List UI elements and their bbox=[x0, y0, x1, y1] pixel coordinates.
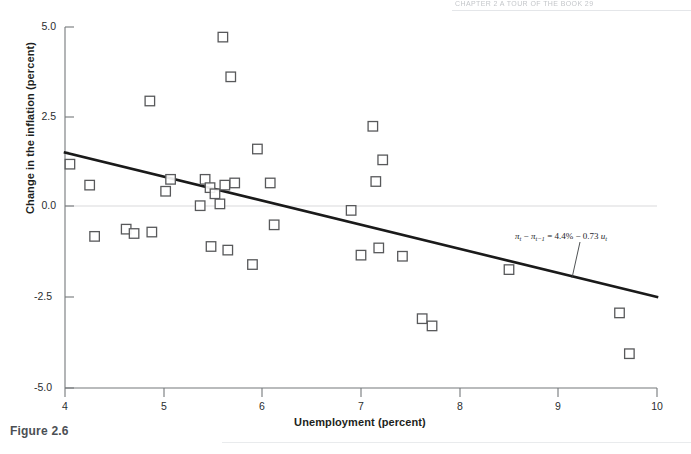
data-point bbox=[253, 144, 263, 154]
data-point bbox=[218, 32, 228, 42]
data-point bbox=[220, 180, 230, 190]
data-point bbox=[195, 201, 205, 211]
data-point bbox=[145, 96, 155, 106]
data-point bbox=[504, 265, 514, 275]
y-tick-label: -5.0 bbox=[18, 381, 52, 393]
data-point bbox=[356, 250, 366, 260]
data-point bbox=[215, 199, 225, 209]
data-point bbox=[371, 177, 381, 187]
data-point bbox=[223, 245, 233, 255]
data-point bbox=[427, 321, 437, 331]
data-point bbox=[161, 187, 171, 197]
data-point bbox=[210, 189, 220, 199]
regression-line bbox=[65, 153, 657, 298]
data-point bbox=[378, 155, 388, 165]
x-tick-label: 5 bbox=[152, 400, 176, 412]
equation-u-t: ut bbox=[601, 231, 607, 241]
data-point bbox=[615, 308, 625, 318]
figure-caption: Figure 2.6 bbox=[10, 424, 69, 438]
y-tick-label: 0.0 bbox=[22, 199, 56, 211]
y-axis-title: Change in the inflation (percent) bbox=[24, 38, 36, 218]
data-point bbox=[230, 178, 240, 188]
data-point bbox=[206, 242, 216, 252]
regression-equation-annotation: πt − πt−1 = 4.4% − 0.73 ut bbox=[515, 231, 607, 242]
x-tick-label: 8 bbox=[448, 400, 472, 412]
data-point bbox=[65, 159, 75, 169]
data-point bbox=[269, 220, 279, 230]
y-tick-label: 5.0 bbox=[22, 20, 56, 32]
data-point bbox=[265, 178, 275, 188]
x-tick-label: 6 bbox=[250, 400, 274, 412]
y-tick-marks bbox=[65, 27, 74, 388]
x-tick-label: 4 bbox=[53, 400, 77, 412]
data-point bbox=[374, 243, 384, 253]
annotation-leader-line bbox=[572, 242, 580, 278]
data-point bbox=[147, 227, 157, 237]
x-tick-label: 10 bbox=[645, 400, 669, 412]
scatter-plot: Change in the inflation (percent) Unempl… bbox=[0, 0, 691, 420]
data-point bbox=[368, 122, 378, 132]
data-point bbox=[625, 349, 635, 359]
x-tick-marks bbox=[65, 388, 657, 397]
data-point bbox=[398, 251, 408, 260]
equation-minus: − bbox=[521, 231, 531, 241]
data-point bbox=[226, 72, 236, 82]
y-tick-label: 2.5 bbox=[22, 110, 56, 122]
caption-divider bbox=[222, 442, 691, 443]
equation-rhs: = 4.4% − 0.73 bbox=[545, 231, 601, 241]
equation-pi-t-1: πt−1 bbox=[531, 231, 545, 241]
data-point bbox=[129, 229, 139, 239]
x-tick-label: 7 bbox=[349, 400, 373, 412]
figure-page: CHAPTER 2 A TOUR OF THE BOOK 29 bbox=[0, 0, 691, 454]
y-tick-label: -2.5 bbox=[18, 290, 52, 302]
x-axis-title: Unemployment (percent) bbox=[200, 416, 520, 428]
data-point bbox=[346, 206, 356, 216]
data-point bbox=[417, 314, 427, 324]
data-point bbox=[248, 260, 258, 270]
data-point-group bbox=[65, 32, 634, 358]
data-point bbox=[90, 232, 100, 242]
x-tick-label: 9 bbox=[546, 400, 570, 412]
plot-svg bbox=[0, 0, 691, 420]
data-point bbox=[166, 175, 176, 185]
data-point bbox=[85, 180, 95, 190]
